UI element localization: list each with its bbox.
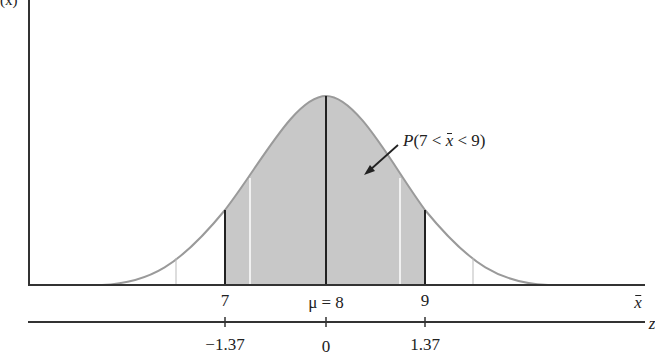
- z-tick-label: 1.37: [410, 335, 440, 355]
- z-tick-label: 0: [322, 337, 331, 356]
- annotation-variable: x: [446, 131, 454, 151]
- x-axis-label: x: [634, 293, 642, 313]
- x-tick-label: μ = 8: [308, 293, 344, 313]
- annotation-suffix: < 9): [453, 131, 485, 150]
- y-axis-label: (x): [0, 0, 18, 9]
- x-axis-label-text: x: [634, 293, 642, 313]
- x-tick-label: 7: [221, 291, 230, 311]
- probability-annotation: P(7 < x < 9): [403, 131, 485, 151]
- z-tick-label: −1.37: [205, 335, 244, 355]
- annotation-prefix: (7 <: [413, 131, 445, 150]
- z-axis-label: z: [649, 314, 655, 334]
- x-tick-label: 9: [421, 291, 430, 311]
